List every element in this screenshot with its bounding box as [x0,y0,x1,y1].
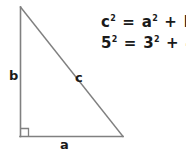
label-side-c: c [75,71,83,84]
equation-operator: + [158,13,184,31]
pythagorean-theorem-figure: b c a c2 = a2 + b2 52 = 32 + 42 [0,0,186,157]
equation-exponent: 2 [154,35,160,44]
equation-pythagorean-general: c2 = a2 + b2 [101,12,186,33]
equation-term: b2 [184,13,186,31]
equation-term: a2 [142,13,158,31]
right-angle-marker-icon [21,129,29,137]
equation-operator: = [116,13,142,31]
equation-term: 42 [186,34,187,52]
equation-operator: + [160,34,186,52]
equation-block: c2 = a2 + b2 52 = 32 + 42 [101,12,186,54]
equation-operator: = [117,34,143,52]
equation-exponent: 2 [110,14,116,23]
label-side-b: b [9,69,18,82]
equation-term: c2 [101,13,116,31]
equation-term: 32 [143,34,159,52]
equation-exponent: 2 [152,14,158,23]
equation-pythagorean-345: 52 = 32 + 42 [101,33,186,54]
equation-term: 52 [101,34,117,52]
label-side-a: a [60,138,69,151]
